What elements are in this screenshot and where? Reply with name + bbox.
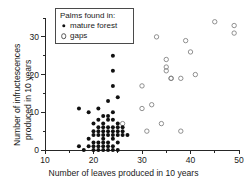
data-point-mature-forest: [111, 133, 115, 137]
data-point-mature-forest: [111, 148, 115, 152]
legend-entry-mature-forest: mature forest: [60, 21, 130, 31]
data-point-mature-forest: [96, 148, 100, 152]
data-point-mature-forest: [96, 140, 100, 144]
data-point-mature-forest: [82, 148, 86, 152]
legend-label-gaps: gaps: [70, 31, 87, 41]
data-point-gaps: [120, 121, 124, 125]
data-point-mature-forest: [92, 133, 96, 137]
y-axis-title: Number of infructescences produced in 10…: [0, 0, 30, 160]
data-point-mature-forest: [101, 137, 105, 141]
tick-label-group: 10203040500102030: [30, 32, 244, 165]
data-point-mature-forest: [106, 125, 110, 129]
data-point-gaps: [232, 31, 236, 35]
data-point-gaps: [179, 129, 183, 133]
x-tick-label: 10: [40, 155, 50, 165]
data-point-mature-forest: [116, 129, 120, 133]
data-point-mature-forest: [101, 144, 105, 148]
data-point-mature-forest: [111, 54, 115, 58]
legend-entry-gaps: gaps: [60, 31, 130, 41]
data-point-mature-forest: [77, 144, 81, 148]
legend-title: Palms found in:: [60, 11, 130, 21]
data-point-mature-forest: [116, 122, 120, 126]
data-point-mature-forest: [111, 69, 115, 73]
data-point-gaps: [159, 121, 163, 125]
data-point-mature-forest: [111, 110, 115, 114]
data-point-mature-forest: [106, 129, 110, 133]
legend-label-mature-forest: mature forest: [70, 21, 117, 31]
data-point-gaps: [140, 106, 144, 110]
data-point-mature-forest: [101, 140, 105, 144]
data-point-mature-forest: [106, 144, 110, 148]
open-circle-icon: [60, 33, 67, 40]
data-point-mature-forest: [96, 118, 100, 122]
data-point-mature-forest: [111, 137, 115, 141]
data-point-gaps: [164, 57, 168, 61]
data-point-mature-forest: [116, 133, 120, 137]
data-point-mature-forest: [116, 95, 120, 99]
y-axis-title-line1: Number of infructescences: [12, 44, 22, 146]
x-tick-label: 40: [186, 155, 196, 165]
data-point-mature-forest: [92, 144, 96, 148]
data-point-mature-forest: [121, 129, 125, 133]
data-point-mature-forest: [96, 125, 100, 129]
y-tick-label: 0: [34, 145, 39, 155]
data-point-gaps: [154, 35, 158, 39]
data-point-gaps: [169, 76, 173, 80]
data-point-mature-forest: [96, 107, 100, 111]
x-axis-title: Number of leaves produced in 10 years: [0, 168, 247, 178]
data-point-mature-forest: [106, 118, 110, 122]
data-point-mature-forest: [125, 133, 129, 137]
x-tick-label: 50: [234, 155, 244, 165]
x-tick-label: 30: [137, 155, 147, 165]
data-point-gaps: [179, 76, 183, 80]
data-point-mature-forest: [77, 107, 81, 111]
legend-box: Palms found in: mature forest gaps: [55, 8, 134, 44]
data-point-mature-forest: [96, 133, 100, 137]
data-point-mature-forest: [106, 140, 110, 144]
data-point-mature-forest: [116, 140, 120, 144]
data-point-mature-forest: [101, 148, 105, 152]
data-point-mature-forest: [116, 148, 120, 152]
data-point-mature-forest: [111, 129, 115, 133]
data-point-gaps: [188, 50, 192, 54]
data-point-gaps: [145, 129, 149, 133]
data-point-mature-forest: [96, 144, 100, 148]
filled-circle-icon: [60, 23, 67, 30]
data-point-mature-forest: [111, 84, 115, 88]
data-points-mature-forest: [77, 54, 130, 152]
y-axis-title-line2: produced in 10 years: [23, 60, 33, 140]
data-point-mature-forest: [101, 114, 105, 118]
data-point-gaps: [140, 84, 144, 88]
data-point-mature-forest: [92, 129, 96, 133]
data-point-mature-forest: [92, 140, 96, 144]
data-point-mature-forest: [116, 125, 120, 129]
data-point-mature-forest: [106, 148, 110, 152]
data-point-mature-forest: [121, 133, 125, 137]
data-point-mature-forest: [106, 133, 110, 137]
data-point-mature-forest: [87, 144, 91, 148]
data-point-mature-forest: [111, 118, 115, 122]
data-point-mature-forest: [87, 137, 91, 141]
data-point-mature-forest: [101, 125, 105, 129]
data-point-gaps: [232, 23, 236, 27]
x-tick-label: 20: [89, 155, 99, 165]
data-point-gaps: [183, 38, 187, 42]
data-point-mature-forest: [96, 129, 100, 133]
data-point-mature-forest: [101, 129, 105, 133]
data-point-mature-forest: [106, 99, 110, 103]
data-point-mature-forest: [111, 144, 115, 148]
data-point-mature-forest: [121, 125, 125, 129]
data-point-mature-forest: [92, 122, 96, 126]
data-point-mature-forest: [101, 122, 105, 126]
data-point-mature-forest: [101, 133, 105, 137]
data-point-gaps: [193, 72, 197, 76]
data-point-mature-forest: [106, 114, 110, 118]
data-point-mature-forest: [111, 125, 115, 129]
data-point-gaps: [150, 103, 154, 107]
data-point-mature-forest: [87, 110, 91, 114]
y-tick-label: 30: [30, 32, 40, 42]
data-point-gaps: [213, 20, 217, 24]
data-point-mature-forest: [92, 148, 96, 152]
scatter-figure: 10203040500102030 Palms found in: mature…: [0, 0, 247, 184]
data-points-gaps: [120, 20, 236, 134]
